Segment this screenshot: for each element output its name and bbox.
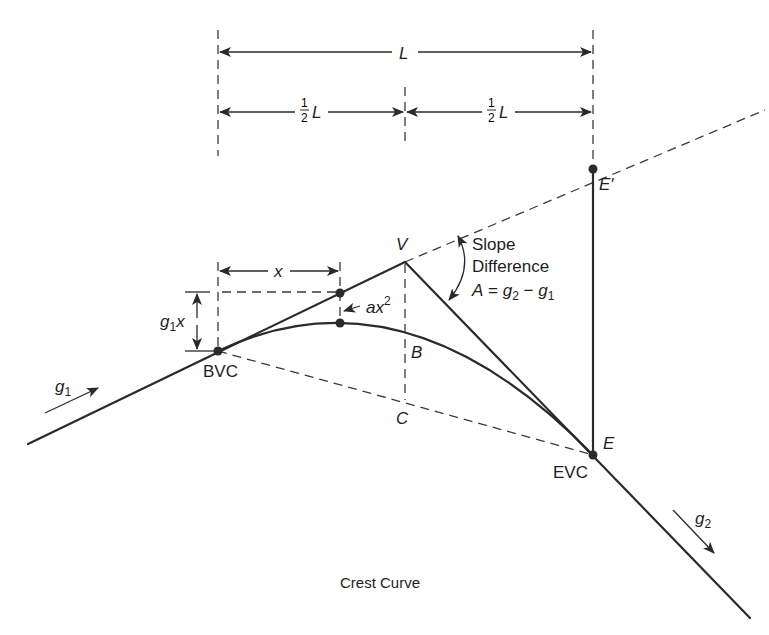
g1-direction-arrow xyxy=(45,388,98,413)
half-L-right-numerator: 1 xyxy=(488,96,495,110)
g1-label: g1 xyxy=(55,377,71,399)
g1x-label: g1x xyxy=(160,312,185,334)
half-L-left-numerator: 1 xyxy=(301,96,308,110)
slope-difference-arc xyxy=(449,236,465,300)
label-E: E xyxy=(603,434,615,453)
slope-difference-equation: A = g2 − g1 xyxy=(471,281,555,303)
point-EVC xyxy=(589,451,598,460)
slope-difference-line2: Difference xyxy=(472,257,549,276)
ax2-label: ax2 xyxy=(366,294,391,317)
half-L-right-var: L xyxy=(499,103,508,122)
slope-difference-line1: Slope xyxy=(472,235,515,254)
diagram-caption: Crest Curve xyxy=(340,574,420,591)
half-L-left-denominator: 2 xyxy=(301,111,308,125)
x-label: x xyxy=(273,262,283,281)
point-BVC xyxy=(214,347,223,356)
label-C: C xyxy=(396,409,409,428)
half-L-left-var: L xyxy=(312,103,321,122)
ax2-pointer-arrow xyxy=(344,306,360,311)
point-curve-offset xyxy=(336,319,345,328)
label-BVC: BVC xyxy=(203,362,238,381)
L-label: L xyxy=(399,44,408,63)
point-E-prime xyxy=(589,165,598,174)
label-EVC: EVC xyxy=(553,463,588,482)
crest-curve-diagram: L 1 2 L 1 2 L x g1x ax2 Slope Difference xyxy=(0,0,769,635)
label-V: V xyxy=(396,235,409,254)
label-B: B xyxy=(411,343,422,362)
label-E-prime: E′ xyxy=(599,175,614,194)
g2-label: g2 xyxy=(695,509,711,531)
half-L-right-denominator: 2 xyxy=(488,111,495,125)
point-tangent-offset xyxy=(336,289,345,298)
